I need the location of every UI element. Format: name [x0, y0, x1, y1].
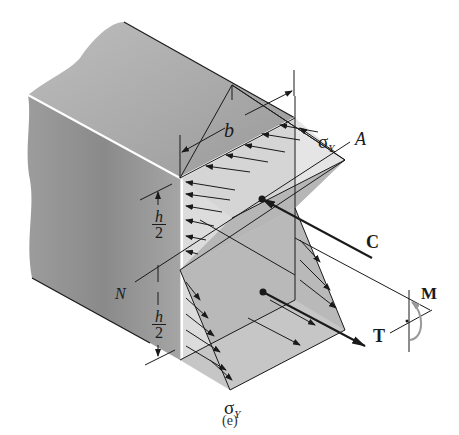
half-height-bottom-label: h 2: [152, 309, 166, 341]
tension-force-label: T: [373, 327, 385, 345]
neutral-axis-label: N: [115, 286, 126, 302]
compression-force-label: C: [366, 233, 379, 251]
beam-section-drawing: [0, 0, 459, 435]
sigma-subscript: Y: [328, 142, 334, 154]
sigma-symbol: σ: [318, 131, 328, 152]
fraction-numerator: h: [152, 309, 166, 325]
fully-plastic-stress-diagram: b σY A h 2 h 2 N C T M σY (e): [0, 0, 459, 435]
point-a-label: A: [355, 130, 366, 148]
yield-stress-top-label: σY: [318, 132, 334, 151]
fraction-denominator: 2: [152, 325, 166, 341]
moment-label: M: [421, 285, 437, 302]
fraction-denominator: 2: [152, 225, 166, 241]
half-height-top-label: h 2: [152, 209, 166, 241]
width-label: b: [224, 120, 234, 140]
figure-caption: (e): [222, 414, 238, 428]
fraction-numerator: h: [152, 209, 166, 225]
